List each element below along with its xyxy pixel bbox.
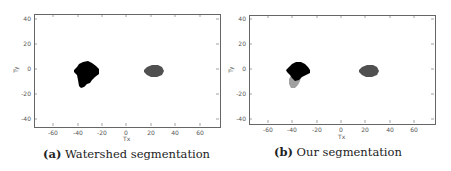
caption-b: (b) Our segmentation — [274, 145, 402, 159]
xtick: 20 — [355, 126, 375, 133]
ytick: 40 — [232, 15, 246, 22]
plot-regions-a — [0, 0, 225, 171]
ytick: 20 — [232, 40, 246, 47]
xtick: 60 — [404, 126, 424, 133]
ytick: -20 — [232, 90, 246, 97]
segment-grey — [144, 65, 164, 77]
xtick: 20 — [141, 129, 161, 136]
xtick: 40 — [380, 126, 400, 133]
panel-a: 40 20 0 -20 -40 -60 -40 -20 0 20 40 60 T… — [0, 0, 225, 171]
ytick: 0 — [232, 65, 246, 72]
caption-label: (b) — [274, 145, 293, 159]
caption-label: (a) — [43, 147, 61, 161]
xtick: 40 — [165, 129, 185, 136]
ytick: -40 — [17, 115, 31, 122]
caption-text: Watershed segmentation — [65, 147, 210, 161]
xtick: -20 — [92, 129, 112, 136]
segment-grey — [359, 65, 379, 77]
caption-a: (a) Watershed segmentation — [43, 147, 210, 161]
ytick: 20 — [17, 40, 31, 47]
panel-b: 40 20 0 -20 -40 -60 -40 -20 0 20 40 60 T… — [225, 0, 451, 171]
xtick: -60 — [258, 126, 278, 133]
xtick: -20 — [307, 126, 327, 133]
ytick: -40 — [232, 115, 246, 122]
xtick: -40 — [282, 126, 302, 133]
xtick: 0 — [331, 126, 351, 133]
x-axis-label: Tx — [123, 135, 130, 142]
x-axis-label: Tx — [338, 133, 345, 140]
xtick: -40 — [68, 129, 88, 136]
y-axis-label: Ty — [227, 66, 234, 72]
ytick: -20 — [17, 90, 31, 97]
ytick: 0 — [17, 65, 31, 72]
ytick: 40 — [17, 15, 31, 22]
xtick: -60 — [43, 129, 63, 136]
y-axis-label: Ty — [12, 66, 19, 72]
xtick: 60 — [190, 129, 210, 136]
segment-black — [74, 61, 99, 88]
caption-text: Our segmentation — [297, 145, 402, 159]
